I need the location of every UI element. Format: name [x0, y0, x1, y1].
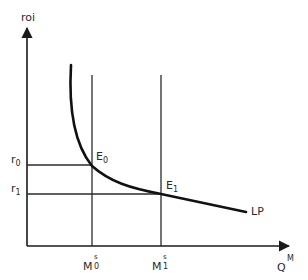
- equilibrium-label-e1: E1: [166, 180, 178, 191]
- equilibrium-label-e0: E0: [96, 151, 108, 162]
- rate-label-r1: r1: [11, 183, 21, 194]
- money-supply-label-ms1: Ms1: [152, 257, 162, 273]
- y-axis-label: roi: [21, 12, 35, 23]
- curve-label-lp: LP: [251, 206, 264, 217]
- rate-label-r0: r0: [11, 154, 21, 165]
- money-supply-label-ms0: Ms0: [83, 257, 93, 273]
- x-axis-label: QM: [277, 258, 286, 274]
- liquidity-preference-diagram: [0, 0, 308, 280]
- lp-curve: [70, 65, 246, 212]
